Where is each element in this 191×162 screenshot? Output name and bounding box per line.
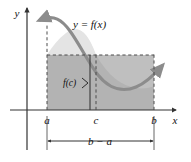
dimension-label: b − a (88, 135, 112, 147)
y-axis-label: y (14, 7, 20, 19)
curve-label: y = f(x) (72, 18, 106, 31)
figure-canvas: y x y = f(x) f(c) a c b b − a (0, 0, 191, 162)
mean-value-theorem-figure: y x y = f(x) f(c) a c b b − a (0, 0, 191, 162)
x-axis-label: x (172, 114, 178, 126)
fc-label: f(c) (63, 78, 76, 89)
tick-label-b: b (151, 114, 157, 126)
tick-label-c: c (94, 114, 99, 126)
tick-label-a: a (44, 114, 50, 126)
